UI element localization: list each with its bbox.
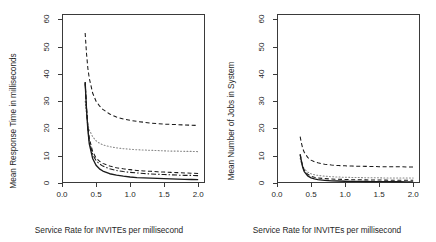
curve-curve-dashdot-lower (85, 84, 198, 176)
panel-response-time: Mean Response Time in milliseconds Servi… (0, 0, 218, 242)
figure-two-panel-plot: Mean Response Time in milliseconds Servi… (0, 0, 436, 242)
panel-jobs-in-system: Mean Number of Jobs in System Service Ra… (218, 0, 436, 242)
curve-curve-dashed-lower (300, 154, 413, 180)
curves-layer (218, 0, 436, 242)
curve-curve-dashed-lower (85, 82, 198, 173)
curve-curve-dotted-middle (85, 101, 198, 151)
curve-curve-dotted-middle (300, 158, 413, 178)
curve-curve-solid-lowest (85, 82, 198, 179)
curve-curve-dashed-upper (85, 33, 198, 125)
curve-curve-dashed-upper (300, 137, 413, 167)
curves-layer (0, 0, 218, 242)
